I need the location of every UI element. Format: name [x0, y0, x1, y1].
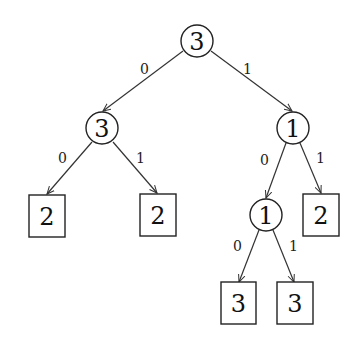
- svg-text:3: 3: [231, 290, 246, 318]
- svg-text:2: 2: [150, 202, 165, 230]
- svg-text:3: 3: [189, 28, 204, 56]
- edge-label-n10-n101: 1: [289, 238, 298, 254]
- leaf-n101: 3: [277, 282, 313, 324]
- svg-text:1: 1: [285, 115, 300, 143]
- svg-text:3: 3: [287, 290, 302, 318]
- svg-text:2: 2: [39, 203, 54, 231]
- svg-text:2: 2: [313, 202, 328, 230]
- edge-n10-n100: [239, 230, 259, 282]
- edge-label-n1-n10: 0: [260, 152, 269, 168]
- edge-label-root-n0: 0: [140, 61, 149, 77]
- edge-root-n1: [211, 51, 292, 111]
- node-n10: 1: [250, 199, 282, 231]
- edge-n1-n10: [266, 143, 286, 198]
- edge-root-n0: [103, 51, 183, 111]
- leaf-n00: 2: [29, 195, 65, 237]
- leaf-n01: 2: [140, 194, 176, 236]
- node-n1: 1: [277, 112, 309, 144]
- edge-label-n10-n100: 0: [233, 238, 242, 254]
- edge-label-n1-n11: 1: [316, 150, 325, 166]
- node-root: 3: [181, 25, 213, 57]
- binary-tree-diagram: 0 1 0 1 0 1 0 1 3 3 1 2 2 1: [0, 0, 358, 341]
- edge-label-n0-n01: 1: [136, 150, 145, 166]
- svg-text:3: 3: [94, 115, 109, 143]
- leaf-n11: 2: [303, 194, 339, 236]
- edge-n0-n00: [47, 142, 92, 194]
- edge-n0-n01: [113, 142, 157, 193]
- node-n0: 3: [86, 112, 118, 144]
- leaf-n100: 3: [221, 282, 256, 324]
- edges: [47, 51, 321, 282]
- svg-text:1: 1: [258, 202, 273, 230]
- edge-label-root-n1: 1: [243, 61, 252, 77]
- edge-labels: 0 1 0 1 0 1 0 1: [58, 61, 325, 254]
- edge-label-n0-n00: 0: [58, 150, 67, 166]
